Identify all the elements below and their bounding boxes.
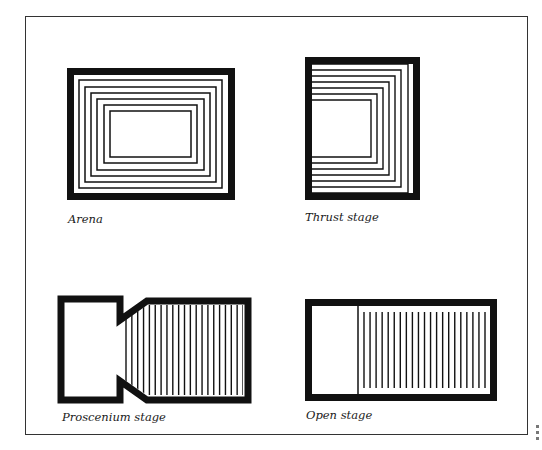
page-edge-marks bbox=[536, 425, 542, 443]
seating-row-line bbox=[312, 94, 377, 163]
edge-mark bbox=[536, 437, 539, 440]
open-stage-diagram bbox=[309, 303, 494, 398]
proscenium-stage-diagram bbox=[61, 299, 248, 400]
proscenium-stage-caption: Proscenium stage bbox=[62, 410, 166, 424]
open-stage-caption: Open stage bbox=[306, 408, 372, 422]
seating-row-line bbox=[312, 100, 371, 157]
arena-outer-wall bbox=[71, 72, 232, 197]
edge-mark bbox=[536, 431, 539, 434]
edge-mark bbox=[536, 425, 539, 428]
thrust-stage-caption: Thrust stage bbox=[305, 210, 379, 224]
arena-diagram bbox=[71, 72, 232, 197]
thrust-stage-diagram bbox=[309, 61, 417, 197]
seating-ring bbox=[110, 111, 191, 157]
seating-rows bbox=[126, 305, 243, 395]
arena-caption: Arena bbox=[68, 212, 103, 226]
seating-ring bbox=[97, 99, 204, 170]
open-stage-outer-wall bbox=[309, 303, 494, 398]
seating-row-line bbox=[312, 64, 408, 193]
seating-ring bbox=[104, 105, 197, 163]
seating-ring bbox=[79, 80, 222, 188]
